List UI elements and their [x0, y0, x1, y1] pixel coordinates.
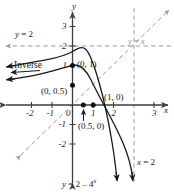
point-label-0-1: (0, 1): [77, 60, 97, 69]
function-equation-label: y = 2 – 4x: [62, 178, 96, 189]
point-marker-1-0: [91, 103, 96, 108]
point-marker-0-1: [70, 63, 75, 68]
y-axis-label: y: [72, 2, 76, 11]
x-tick-minus-1: -1: [47, 109, 55, 118]
x-tick-minus-2: -2: [26, 109, 34, 118]
point-marker-0-05: [70, 83, 75, 88]
exponent-x: x: [94, 177, 97, 184]
point-label-05-0: (0.5, 0): [78, 122, 104, 131]
y-tick-minus-1: -1: [59, 120, 67, 129]
point-label-0-05: (0, 0.5): [41, 87, 67, 96]
identity-line-label: y = x: [128, 37, 145, 46]
y-tick-3: 3: [62, 22, 67, 31]
curve-inverse-function: [7, 65, 133, 181]
y-axis: [70, 12, 76, 183]
inverse-callout-arrow: [11, 71, 40, 73]
identity-line-y-equals-x: [21, 10, 170, 156]
x-tick-2: 2: [112, 109, 117, 118]
point-label-1-0: (1, 0): [104, 93, 124, 102]
x-tick-1: 1: [91, 109, 96, 118]
y-tick-minus-2: -2: [59, 140, 67, 149]
horizontal-asymptote-label: y = 2: [15, 30, 33, 39]
vertical-asymptote-label: x = 2: [137, 158, 155, 167]
point-marker-05-0: [81, 103, 86, 108]
inverse-curve-label: Inverse: [14, 61, 42, 71]
y-tick-2: 2: [62, 42, 67, 51]
origin-label: 0: [66, 109, 71, 118]
y-tick-1: 1: [63, 61, 68, 70]
graph-figure: y x 3 2 1 -1 -2 -2 -1 1 2 3 0 y = 2 x = …: [0, 0, 174, 193]
x-axis-label: x: [164, 106, 168, 115]
x-tick-3: 3: [152, 109, 157, 118]
